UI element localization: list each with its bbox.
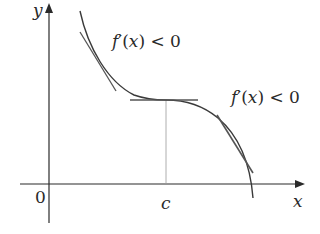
x-axis-arrow-icon	[295, 180, 305, 188]
x-axis-label: x	[293, 191, 303, 211]
annotation-x: x	[248, 87, 258, 107]
annotation-x: x	[129, 31, 139, 51]
tangent-line-right	[217, 115, 253, 173]
origin-label: 0	[35, 187, 46, 207]
derivative-annotation-right: f′(x) < 0	[231, 87, 300, 107]
annotation-relation: < 0	[264, 87, 300, 107]
annotation-paren-open: (	[241, 87, 248, 107]
annotation-relation: < 0	[145, 31, 181, 51]
c-label: c	[161, 193, 171, 213]
derivative-annotation-left: f′(x) < 0	[112, 31, 181, 51]
y-axis-arrow-icon	[45, 3, 53, 13]
annotation-paren-open: (	[122, 31, 129, 51]
y-axis-label: y	[33, 0, 43, 20]
tangent-line-left	[80, 32, 116, 91]
